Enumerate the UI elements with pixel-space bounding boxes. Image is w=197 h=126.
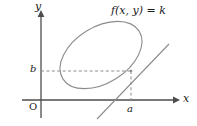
origin-label: O [29,102,37,112]
level-curve-label: f(x, y) = k [111,5,166,16]
tangent-line [97,44,169,119]
tangency-point-marker [130,70,133,73]
math-figure: y x O a b f(x, y) = k [0,0,197,126]
x-axis-arrow-icon [173,97,180,104]
x-axis-label: x [183,93,189,104]
y-intercept-label-b: b [30,64,36,74]
level-curve [48,7,154,102]
y-axis [38,10,45,118]
y-axis-label: y [35,1,41,12]
x-intercept-label-a: a [127,104,133,114]
x-axis [22,97,180,104]
